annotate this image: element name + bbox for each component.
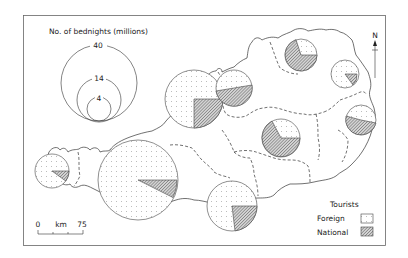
legend-national-label: National [317, 228, 348, 237]
size-label-4: 4 [97, 94, 102, 103]
legend-foreign-swatch [361, 214, 373, 223]
scale-end: 75 [77, 220, 87, 229]
pie-far-west [35, 154, 69, 188]
size-label-40: 40 [93, 41, 103, 50]
legend-national-swatch [361, 227, 373, 236]
map-figure: No. of bednights (millions) 40 14 4 [0, 0, 408, 258]
north-label: N [372, 31, 378, 40]
pie-south [207, 181, 257, 231]
map-frame [24, 16, 386, 246]
pie-south-east-central [262, 119, 300, 157]
legend-foreign-label: Foreign [317, 214, 345, 223]
pie-north [216, 70, 252, 106]
pie-east [346, 105, 376, 135]
legend-title: Tourists [329, 200, 359, 209]
size-label-14: 14 [94, 74, 104, 83]
pie-central-north [165, 70, 223, 128]
size-legend-title: No. of bednights (millions) [49, 27, 148, 36]
scale-start: 0 [36, 220, 41, 229]
pie-west [98, 140, 178, 220]
pie-capital-east [331, 60, 359, 88]
pie-north-east [285, 39, 317, 71]
scale-unit: km [55, 220, 67, 229]
